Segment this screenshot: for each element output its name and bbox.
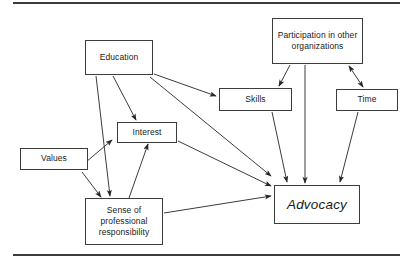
edge-interest-to-advocacy — [178, 141, 271, 186]
edge-education-to-sense — [96, 76, 110, 196]
node-education: Education — [85, 40, 153, 75]
edge-education-to-skills — [154, 74, 216, 96]
node-label-education: Education — [98, 52, 141, 63]
edge-values-to-interest — [86, 140, 112, 162]
top-divider-rule — [13, 2, 400, 4]
diagram-canvas: EducationParticipation in other organiza… — [0, 0, 414, 264]
node-label-sense: Sense of professional responsibility — [86, 205, 162, 239]
edge-sense-to-advocacy — [164, 196, 271, 213]
bottom-divider-rule — [13, 254, 400, 256]
node-participation: Participation in other organizations — [272, 18, 363, 64]
edge-skills-to-advocacy — [272, 112, 287, 182]
node-interest: Interest — [117, 122, 177, 143]
node-sense: Sense of professional responsibility — [85, 198, 163, 245]
edge-sense-to-interest — [129, 144, 148, 198]
node-label-advocacy: Advocacy — [285, 196, 349, 214]
edge-participation-time-bidirectional — [349, 66, 363, 87]
node-time: Time — [336, 89, 398, 111]
node-skills: Skills — [219, 88, 292, 111]
node-label-time: Time — [356, 94, 379, 105]
node-label-interest: Interest — [130, 127, 163, 138]
node-label-values: Values — [39, 153, 69, 164]
node-label-participation: Participation in other organizations — [273, 30, 362, 52]
edge-time-to-advocacy — [340, 112, 358, 182]
node-label-skills: Skills — [243, 94, 267, 105]
node-values: Values — [20, 148, 88, 170]
edge-values-to-sense — [82, 172, 101, 197]
node-advocacy: Advocacy — [274, 185, 360, 224]
edge-education-to-interest — [113, 76, 136, 120]
edge-participation-to-skills — [279, 65, 290, 86]
